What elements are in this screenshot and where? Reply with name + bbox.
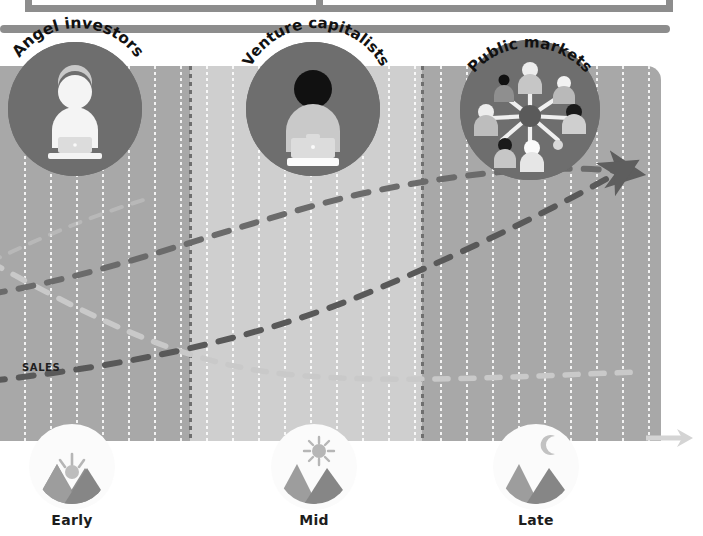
- timeline-marker-early[interactable]: Early: [29, 424, 115, 510]
- sales-curve: [0, 170, 622, 381]
- top-panel-divider: [316, 0, 323, 12]
- funding-stage-label: Public markets: [464, 33, 596, 76]
- funding-stage-badge-venture-capitalists[interactable]: Venture capitalists: [246, 42, 380, 176]
- profit-curve: [0, 169, 626, 294]
- svg-text:Venture capitalists: Venture capitalists: [239, 14, 394, 69]
- cashflow-curve: [0, 262, 641, 379]
- timeline-marker-mid[interactable]: Mid: [271, 424, 357, 510]
- top-cropped-panel: [25, 0, 673, 12]
- timeline-label: Late: [493, 512, 579, 528]
- mountains-moon-icon: [493, 424, 579, 510]
- funding-stage-badge-angel-investors[interactable]: Angel investors: [8, 42, 142, 176]
- funding-stage-label: Venture capitalists: [239, 14, 394, 69]
- mountains-sun-icon: [271, 424, 357, 510]
- badge-label-arc: Public markets: [446, 24, 614, 114]
- mountains-sunrise-icon: [29, 424, 115, 510]
- timeline-label: Mid: [271, 512, 357, 528]
- time-axis-arrow: [646, 425, 696, 451]
- sales-curve-label: SALES: [22, 362, 60, 373]
- svg-text:Public markets: Public markets: [464, 33, 596, 76]
- timeline-label: Early: [29, 512, 115, 528]
- cashflow-curve-tail: [0, 198, 150, 262]
- funding-stage-label: Angel investors: [9, 14, 148, 61]
- infographic-root: SALES Angel investors: [0, 0, 703, 536]
- timeline-marker-late[interactable]: Late: [493, 424, 579, 510]
- badge-label-arc: Venture capitalists: [232, 26, 400, 116]
- svg-text:Angel investors: Angel investors: [9, 14, 148, 61]
- funding-stage-badge-public-markets[interactable]: Public markets: [460, 40, 600, 180]
- badge-label-arc: Angel investors: [0, 26, 162, 116]
